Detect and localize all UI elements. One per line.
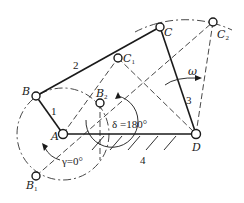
link-3-rocker bbox=[160, 27, 196, 134]
joint-B bbox=[32, 92, 40, 100]
label-C1: C1 bbox=[123, 52, 135, 66]
joint-C bbox=[156, 23, 164, 31]
delta-arrow-icon bbox=[115, 92, 121, 99]
label-link-2: 2 bbox=[73, 59, 79, 71]
link-1-crank bbox=[36, 96, 63, 134]
joint-D bbox=[192, 130, 201, 139]
joint-C1 bbox=[114, 54, 122, 62]
label-B1: B1 bbox=[25, 179, 38, 193]
label-delta: δ =180° bbox=[112, 118, 147, 130]
gamma-arc bbox=[45, 148, 60, 160]
label-link-4: 4 bbox=[140, 154, 146, 166]
gamma-arrow-icon bbox=[42, 143, 48, 151]
label-A: A bbox=[50, 130, 59, 143]
joint-A bbox=[59, 130, 68, 139]
label-C2: C2 bbox=[217, 28, 229, 42]
joint-B2 bbox=[96, 99, 104, 107]
line-A-C1 bbox=[63, 58, 118, 134]
label-link-1: 1 bbox=[51, 105, 57, 117]
omega-arc bbox=[165, 78, 198, 85]
label-gamma: γ=0° bbox=[61, 155, 83, 167]
label-link-3: 3 bbox=[186, 94, 192, 106]
label-omega: ω bbox=[188, 65, 197, 78]
four-bar-linkage-diagram: B A C D B1 B2 C1 C2 1 2 3 4 ω δ =180° γ=… bbox=[0, 0, 244, 203]
joint-C2 bbox=[209, 18, 217, 26]
ground-hatching bbox=[92, 136, 176, 150]
label-B: B bbox=[21, 85, 30, 98]
label-C: C bbox=[164, 26, 173, 39]
label-B2: B2 bbox=[95, 87, 108, 101]
label-D: D bbox=[191, 141, 201, 154]
